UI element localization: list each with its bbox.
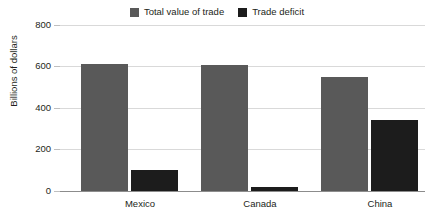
y-tick-mark-200 (54, 149, 60, 150)
legend-item-trade-deficit: Trade deficit (238, 7, 304, 17)
category-label-mexico: Mexico (110, 198, 170, 209)
bar-mexico-trade-deficit (131, 170, 178, 191)
bar-mexico-total-value-of-trade (81, 64, 128, 191)
y-tick-label-200: 200 (11, 144, 51, 154)
y-tick-mark-400 (54, 108, 60, 109)
y-tick-label-800: 800 (11, 20, 51, 30)
chart-legend: Total value of trade Trade deficit (0, 4, 434, 20)
y-tick-mark-600 (54, 66, 60, 67)
category-label-china: China (350, 198, 410, 209)
y-tick-mark-0 (54, 191, 60, 192)
legend-label-total-value-of-trade: Total value of trade (144, 7, 224, 17)
bar-china-trade-deficit (371, 120, 418, 191)
bar-canada-total-value-of-trade (201, 65, 248, 191)
gridline-800 (60, 25, 425, 26)
bar-canada-trade-deficit (251, 187, 298, 191)
y-tick-label-0: 0 (11, 186, 51, 196)
y-tick-label-400: 400 (11, 103, 51, 113)
axis-baseline (60, 191, 425, 192)
legend-swatch-total-value-of-trade (130, 8, 139, 17)
category-label-canada: Canada (230, 198, 290, 209)
y-tick-label-600: 600 (11, 61, 51, 71)
legend-item-total-value-of-trade: Total value of trade (130, 7, 224, 17)
legend-swatch-trade-deficit (238, 8, 247, 17)
y-tick-mark-800 (54, 25, 60, 26)
bar-chart: Total value of trade Trade deficit Billi… (0, 0, 434, 219)
bar-china-total-value-of-trade (321, 77, 368, 191)
legend-label-trade-deficit: Trade deficit (252, 7, 304, 17)
plot-area: 800 600 400 200 0 (60, 25, 425, 191)
